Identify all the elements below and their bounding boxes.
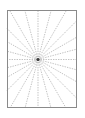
convergence-point bbox=[36, 58, 39, 61]
starburst-diagram bbox=[0, 0, 85, 118]
figure-root bbox=[0, 0, 85, 118]
figure-background bbox=[0, 0, 85, 118]
